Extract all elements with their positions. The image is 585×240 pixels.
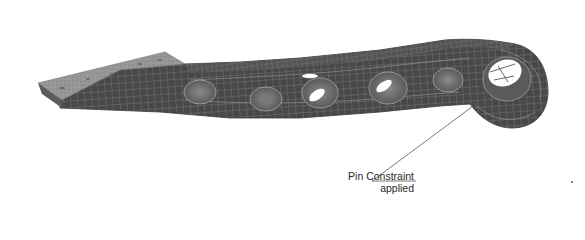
callout-line-2: applied bbox=[282, 182, 414, 194]
pin-constraint-callout: Pin Constraint applied bbox=[282, 170, 414, 194]
callout-line-1: Pin Constraint bbox=[282, 170, 414, 182]
hole-4 bbox=[369, 72, 407, 104]
bracket-arm bbox=[60, 39, 548, 128]
stray-dot bbox=[571, 181, 573, 183]
hole-1 bbox=[184, 80, 216, 104]
arm-body bbox=[60, 39, 548, 128]
hole-5 bbox=[433, 68, 463, 92]
hole-2 bbox=[250, 87, 282, 111]
